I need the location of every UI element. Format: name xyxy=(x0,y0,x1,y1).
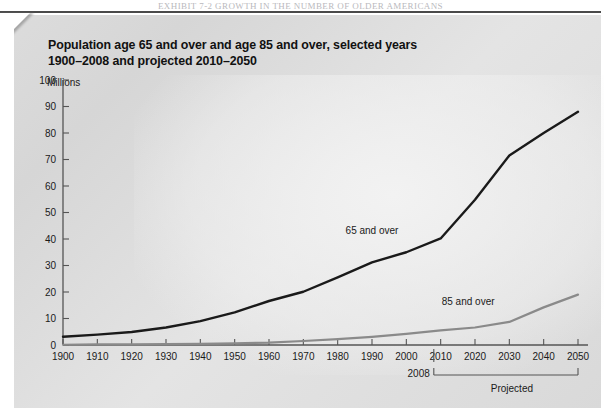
svg-text:1980: 1980 xyxy=(327,351,350,362)
svg-text:2020: 2020 xyxy=(464,351,487,362)
chart-panel: Population age 65 and over and age 85 an… xyxy=(14,15,601,410)
projected-bracket: Projected xyxy=(434,368,578,394)
svg-text:1950: 1950 xyxy=(224,351,247,362)
svg-text:90: 90 xyxy=(45,101,57,112)
svg-text:0: 0 xyxy=(50,340,56,351)
svg-text:2050: 2050 xyxy=(567,351,590,362)
svg-text:10: 10 xyxy=(45,313,57,324)
svg-text:20: 20 xyxy=(45,287,57,298)
svg-text:1940: 1940 xyxy=(189,351,212,362)
svg-text:2000: 2000 xyxy=(395,351,418,362)
svg-text:65 and over: 65 and over xyxy=(346,225,399,236)
running-head: EXHIBIT 7-2 GROWTH IN THE NUMBER OF OLDE… xyxy=(0,0,601,11)
running-head-rule xyxy=(0,11,601,13)
svg-text:70: 70 xyxy=(45,154,57,165)
chart-svg: 0102030405060708090100 19001910192019301… xyxy=(14,15,601,410)
svg-text:1900: 1900 xyxy=(52,351,75,362)
svg-text:Projected: Projected xyxy=(491,383,533,394)
svg-text:30: 30 xyxy=(45,260,57,271)
chart-axes xyxy=(63,80,588,345)
svg-text:80: 80 xyxy=(45,128,57,139)
svg-text:100: 100 xyxy=(39,75,56,86)
chart-series-lines xyxy=(63,112,578,345)
svg-text:2040: 2040 xyxy=(533,351,556,362)
svg-text:60: 60 xyxy=(45,181,57,192)
svg-text:1920: 1920 xyxy=(121,351,144,362)
svg-text:50: 50 xyxy=(45,207,57,218)
svg-text:2010: 2010 xyxy=(430,351,453,362)
chart-series-labels: 65 and over85 and over xyxy=(346,225,496,308)
y-axis-ticks: 0102030405060708090100 xyxy=(39,75,69,351)
svg-text:1930: 1930 xyxy=(155,351,178,362)
left-white-margin xyxy=(0,13,14,410)
svg-text:2030: 2030 xyxy=(498,351,521,362)
svg-text:1970: 1970 xyxy=(292,351,315,362)
svg-text:1910: 1910 xyxy=(86,351,109,362)
svg-text:85 and over: 85 and over xyxy=(442,296,495,307)
svg-text:2008: 2008 xyxy=(408,368,431,379)
svg-text:40: 40 xyxy=(45,234,57,245)
line-chart: 0102030405060708090100 19001910192019301… xyxy=(14,15,601,410)
svg-text:1990: 1990 xyxy=(361,351,384,362)
svg-text:1960: 1960 xyxy=(258,351,281,362)
